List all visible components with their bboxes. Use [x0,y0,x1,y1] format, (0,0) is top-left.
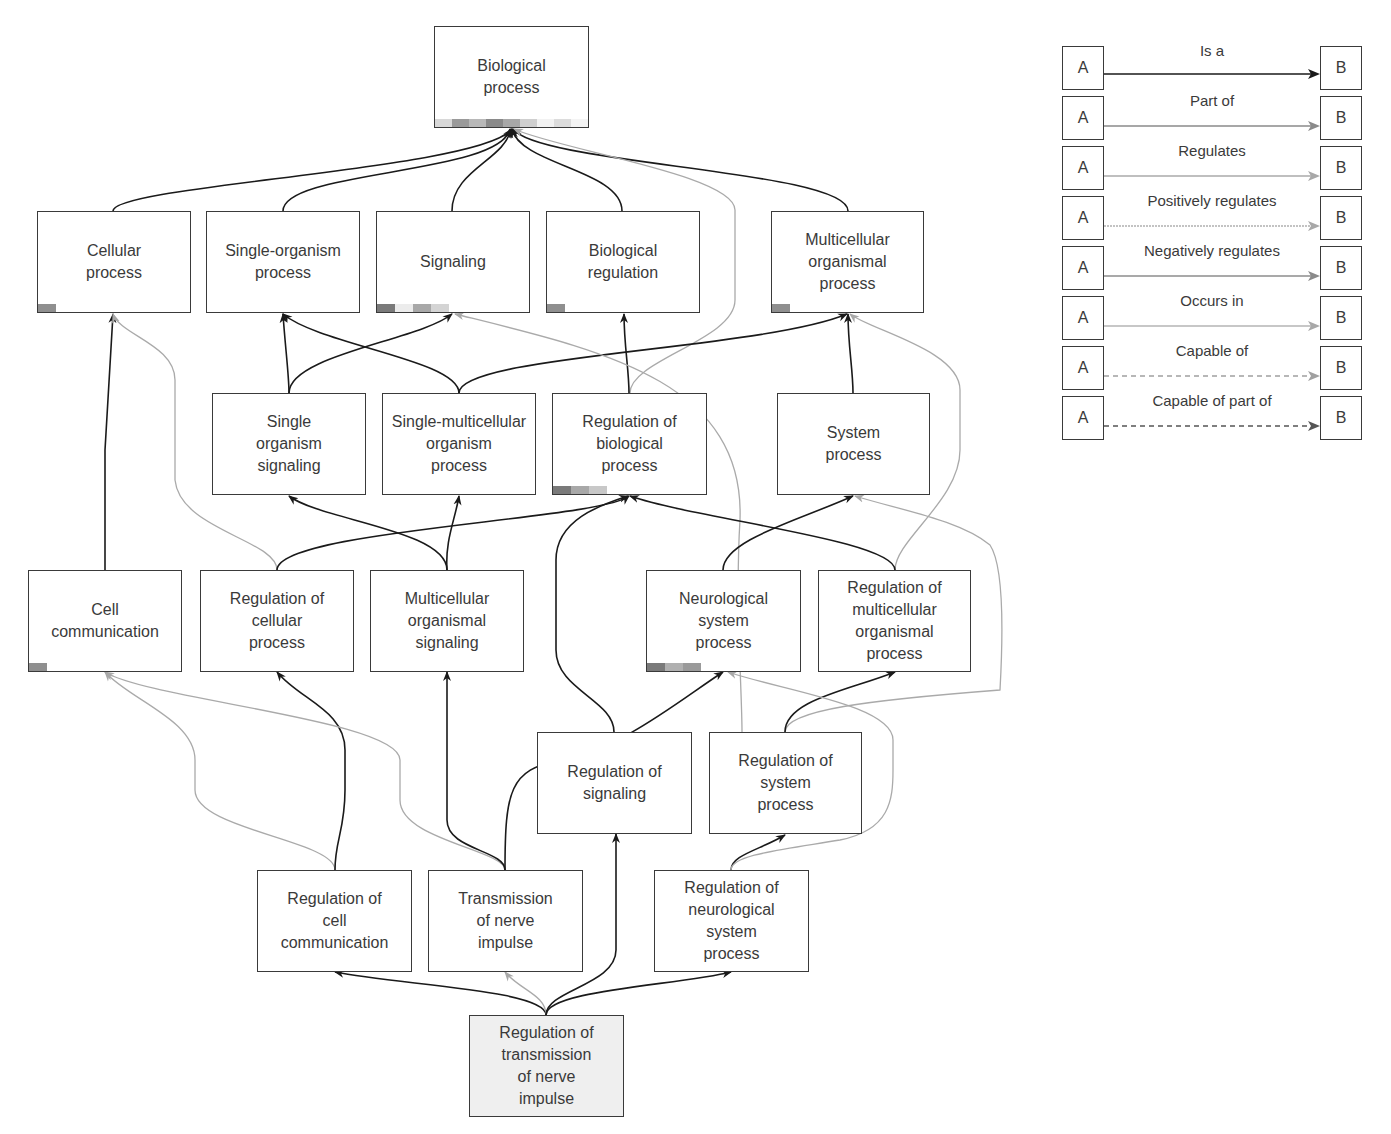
legend-box-b: B [1320,396,1362,440]
edge-is-a [289,496,447,570]
legend-box-a: A [1062,346,1104,390]
edge-regulates [105,672,335,870]
legend-row-occurs-in: ABOccurs in [1062,296,1362,340]
legend-box-a: A [1062,396,1104,440]
legend-box-a: A [1062,246,1104,290]
legend-box-a: A [1062,96,1104,140]
edge-is-a [512,129,622,211]
node-label: Regulation of biological process [582,411,676,477]
node-sig[interactable]: Signaling [376,211,530,313]
node-mop[interactable]: Multicellular organismal process [771,211,924,313]
legend-label: Capable of [1104,342,1320,359]
node-label: Regulation of multicellular organismal p… [847,577,941,665]
edge-is-a [283,314,289,393]
edge-is-a [630,496,895,570]
legend-box-b: B [1320,346,1362,390]
legend-box-a: A [1062,296,1104,340]
annotation-bar [435,119,588,127]
edge-is-a [513,129,848,211]
node-label: Regulation of signaling [567,761,661,805]
node-label: Signaling [420,251,486,273]
legend-box-b: B [1320,246,1362,290]
node-label: Transmission of nerve impulse [458,888,553,954]
legend-label: Part of [1104,92,1320,109]
node-tni[interactable]: Transmission of nerve impulse [428,870,583,972]
node-label: Single-organism process [225,240,341,284]
node-label: Neurological system process [679,588,768,654]
node-sop[interactable]: Single-organism process [206,211,360,313]
node-rsp[interactable]: Regulation of system process [709,732,862,834]
annotation-bar [647,663,701,671]
legend-row-pos-reg: ABPositively regulates [1062,196,1362,240]
annotation-bar [377,304,449,312]
node-label: Biological regulation [588,240,658,284]
node-cc[interactable]: Cell communication [28,570,182,672]
legend-row-capable-of: ABCapable of [1062,346,1362,390]
legend-row-capable-part-of: ABCapable of part of [1062,396,1362,440]
legend-box-b: B [1320,196,1362,240]
edge-is-a [289,314,452,393]
node-bp[interactable]: Biological process [434,26,589,128]
node-label: Biological process [477,55,545,99]
node-label: Regulation of cell communication [281,888,389,954]
node-nsp[interactable]: Neurological system process [646,570,801,672]
node-label: Regulation of cellular process [230,588,324,654]
legend-box-a: A [1062,46,1104,90]
node-rcp[interactable]: Regulation of cellular process [200,570,354,672]
node-mos[interactable]: Multicellular organismal signaling [370,570,524,672]
legend-box-a: A [1062,146,1104,190]
node-cp[interactable]: Cellular process [37,211,191,313]
node-breg[interactable]: Biological regulation [546,211,700,313]
edge-is-a [113,129,512,211]
node-rsig[interactable]: Regulation of signaling [537,732,692,834]
legend-label: Negatively regulates [1104,242,1320,259]
node-label: Multicellular organismal signaling [405,588,489,654]
annotation-bar [29,663,47,671]
node-smop[interactable]: Single-multicellular organism process [382,393,536,495]
edge-is-a [848,314,853,393]
legend-label: Regulates [1104,142,1320,159]
node-label: Single-multicellular organism process [392,411,526,477]
edge-is-a [731,835,785,870]
node-rbp[interactable]: Regulation of biological process [552,393,707,495]
node-label: Regulation of transmission of nerve impu… [499,1022,593,1110]
legend-row-neg-reg: ABNegatively regulates [1062,246,1362,290]
legend-label: Is a [1104,42,1320,59]
legend-box-b: B [1320,96,1362,140]
legend-box-a: A [1062,196,1104,240]
node-rnsp[interactable]: Regulation of neurological system proces… [654,870,809,972]
edge-regulates [105,672,505,870]
node-sos[interactable]: Single organism signaling [212,393,366,495]
node-label: Cell communication [51,599,159,643]
legend-box-b: B [1320,146,1362,190]
legend-box-b: B [1320,296,1362,340]
node-rtni[interactable]: Regulation of transmission of nerve impu… [469,1015,624,1117]
edge-is-a [546,972,731,1015]
edge-is-a [459,314,847,393]
annotation-bar [553,486,607,494]
legend-row-part-of: ABPart of [1062,96,1362,140]
node-rcc[interactable]: Regulation of cell communication [257,870,412,972]
node-label: Multicellular organismal process [805,229,889,295]
legend-label: Positively regulates [1104,192,1320,209]
edge-is-a [556,496,628,732]
edge-is-a [624,314,629,393]
node-rmop[interactable]: Regulation of multicellular organismal p… [818,570,971,672]
annotation-bar [547,304,565,312]
node-label: Cellular process [86,240,142,284]
node-syp[interactable]: System process [777,393,930,495]
edge-is-a [283,314,459,393]
node-label: Single organism signaling [256,411,322,477]
edge-is-a [277,672,345,870]
edge-is-a [452,129,511,211]
annotation-bar [38,304,56,312]
edge-is-a [283,129,510,211]
legend-box-b: B [1320,46,1362,90]
legend-label: Occurs in [1104,292,1320,309]
edge-is-a [723,496,853,570]
node-label: Regulation of system process [738,750,832,816]
edge-regulates [505,972,546,1015]
edge-is-a [105,314,113,570]
legend-row-is-a: ABIs a [1062,46,1362,90]
node-label: Regulation of neurological system proces… [684,877,778,965]
